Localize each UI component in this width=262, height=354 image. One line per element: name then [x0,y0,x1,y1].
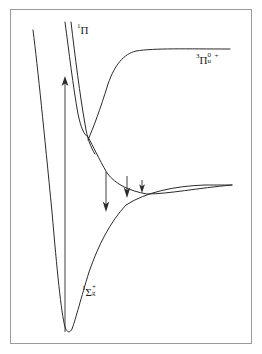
curve-pi-companion [71,22,95,154]
curve-label-singlet-pi-term: Π [81,24,89,36]
emission-arrow-1 [103,172,110,212]
absorption-arrow [62,76,69,332]
potential-energy-diagram: 1Π 3Π0u+ 1Σ+g [0,0,262,354]
curve-label-ground-sigma: 1Σ+g [82,283,99,299]
transition-arrows-group [62,76,145,332]
curve-label-ground-sigma-sub: g [92,290,96,297]
curves-group [33,22,232,332]
emission-arrow-3 [139,180,145,193]
curve-label-singlet-pi: 1Π [77,21,88,37]
curve-ground-sigma [33,30,232,332]
curve-label-triplet-pi: 3Π0u+ [196,51,218,67]
curve-label-triplet-pi-indices: 0u [207,53,214,64]
curve-label-triplet-pi-u: u [207,58,211,65]
diagram-canvas [0,0,262,354]
curve-label-triplet-pi-term: Π [200,54,208,66]
curve-label-ground-sigma-indices: +g [92,285,99,296]
curve-label-triplet-pi-charge: + [214,52,218,60]
